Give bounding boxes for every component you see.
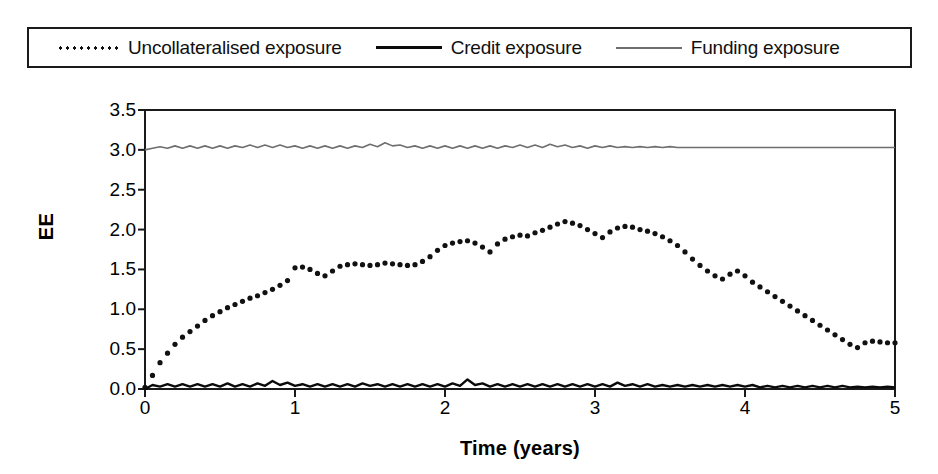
x-tick-label: 3 <box>575 398 615 417</box>
series-3-line <box>145 143 895 150</box>
plot-frame <box>145 110 895 389</box>
chart-plot-area: EE Time (years) 0.00.51.01.52.02.53.03.5… <box>0 0 938 474</box>
series-2-line <box>145 379 895 389</box>
x-tick-label: 5 <box>875 398 915 417</box>
x-tick-label: 2 <box>425 398 465 417</box>
series-1-dotted <box>142 219 897 390</box>
x-tick-label: 0 <box>125 398 165 417</box>
x-tick-label: 1 <box>275 398 315 417</box>
axes-layer <box>138 110 895 397</box>
x-tick-label: 4 <box>725 398 765 417</box>
series-layer <box>142 143 897 390</box>
